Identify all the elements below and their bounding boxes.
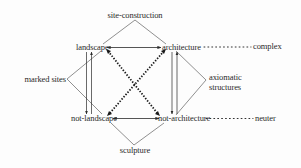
architecture-notarchitecture-arrows [172, 52, 177, 114]
label-axiomatic: axiomatic [209, 73, 242, 82]
label-site-construction: site-construction [108, 11, 163, 20]
landscape-notlandscape-arrows [87, 52, 92, 114]
label-not-architecture: not-architecture [158, 114, 210, 123]
label-complex: complex [253, 42, 282, 51]
label-neuter: neuter [255, 114, 276, 123]
expanded-field-diagram [0, 0, 301, 168]
label-architecture: architecture [162, 43, 201, 52]
contradiction-diagonals [108, 51, 164, 114]
label-structures: structures [209, 83, 241, 92]
marked-sites-connectors [67, 51, 102, 114]
label-sculpture: sculpture [120, 146, 150, 155]
label-not-landscape: not-landscape [71, 114, 117, 123]
sculpture-connectors [111, 123, 164, 145]
label-marked-sites: marked sites [24, 75, 66, 84]
site-construction-connectors [103, 20, 166, 44]
label-landscape: landscape [76, 43, 109, 52]
axiomatic-structures-connectors [176, 51, 206, 115]
